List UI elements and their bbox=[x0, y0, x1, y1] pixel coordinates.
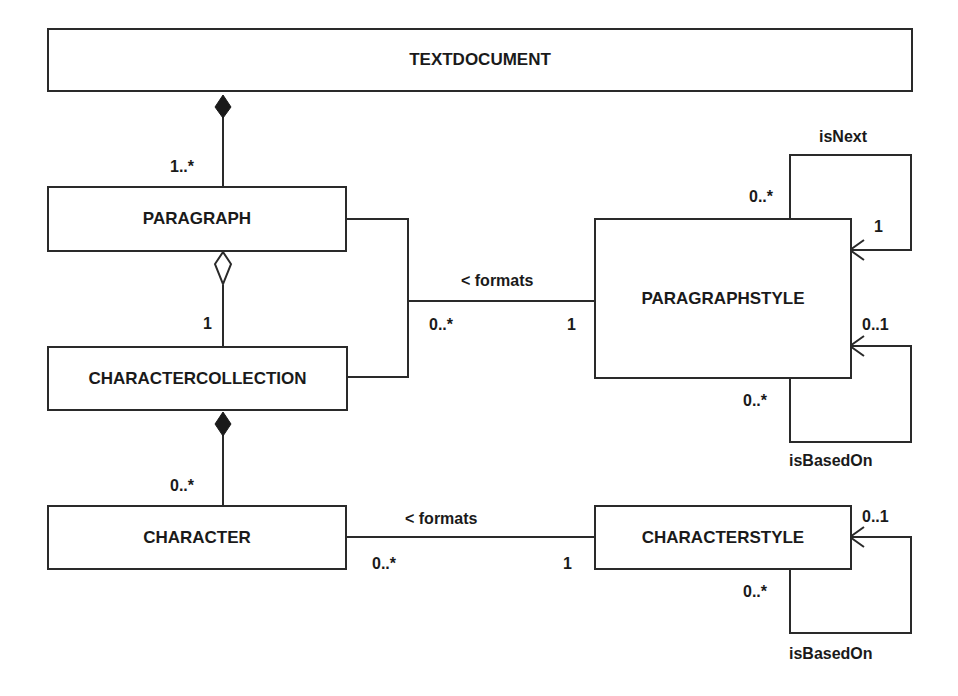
multiplicity-label: 1 bbox=[874, 218, 883, 236]
class-paragraphstyle[interactable]: PARAGRAPHSTYLE bbox=[594, 218, 852, 379]
multiplicity-label: 0..* bbox=[429, 316, 453, 334]
multiplicity-label: 1 bbox=[563, 555, 572, 573]
class-name: PARAGRAPHSTYLE bbox=[641, 289, 804, 309]
class-name: PARAGRAPH bbox=[143, 209, 251, 229]
class-name: TEXTDOCUMENT bbox=[409, 50, 551, 70]
class-name: CHARACTERSTYLE bbox=[642, 528, 804, 548]
association-label: isNext bbox=[819, 128, 867, 146]
multiplicity-label: 1 bbox=[567, 316, 576, 334]
multiplicity-label: 0..* bbox=[743, 583, 767, 601]
multiplicity-label: 0..1 bbox=[862, 508, 889, 526]
class-paragraph[interactable]: PARAGRAPH bbox=[47, 186, 347, 252]
multiplicity-label: 0..* bbox=[372, 555, 396, 573]
association-label: < formats bbox=[461, 272, 533, 290]
association-label: isBasedOn bbox=[789, 452, 873, 470]
association-label: isBasedOn bbox=[789, 645, 873, 663]
multiplicity-label: 1..* bbox=[170, 158, 194, 176]
class-name: CHARACTER bbox=[143, 528, 251, 548]
multiplicity-label: 0..* bbox=[749, 188, 773, 206]
class-textdocument[interactable]: TEXTDOCUMENT bbox=[47, 28, 913, 92]
multiplicity-label: 0..* bbox=[170, 477, 194, 495]
multiplicity-label: 0..* bbox=[743, 392, 767, 410]
class-character[interactable]: CHARACTER bbox=[47, 505, 347, 570]
multiplicity-label: 1 bbox=[203, 315, 212, 333]
class-characterstyle[interactable]: CHARACTERSTYLE bbox=[594, 505, 852, 570]
class-charactercollection[interactable]: CHARACTERCOLLECTION bbox=[47, 346, 348, 411]
class-name: CHARACTERCOLLECTION bbox=[88, 369, 306, 389]
multiplicity-label: 0..1 bbox=[862, 316, 889, 334]
association-label: < formats bbox=[405, 510, 477, 528]
